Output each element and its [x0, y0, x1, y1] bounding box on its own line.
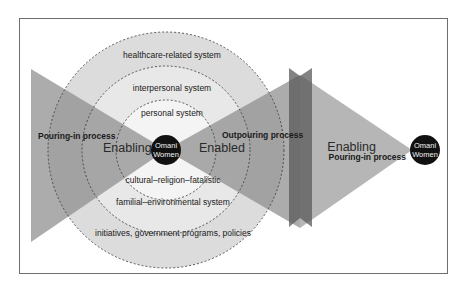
- label-personal-system: personal system: [141, 108, 203, 118]
- label-initiatives-government-programs-policies: initiatives, government programs, polici…: [95, 228, 251, 238]
- label-cultural-religion-fatalistic: cultural–religion–fatalistic: [126, 175, 222, 185]
- label-right-pouring-in-process: Pouring-in process: [329, 152, 407, 162]
- label-interpersonal-system: interpersonal system: [133, 83, 211, 93]
- label-outpouring-process: Outpouring process: [222, 130, 304, 140]
- label-left-pouring-in-process: Pouring-in process: [38, 131, 116, 141]
- label-healthcare-related-system: healthcare-related system: [123, 50, 221, 60]
- label-enabled: Enabled: [199, 141, 245, 155]
- label-familial-environmental-system: familial–environmental system: [116, 197, 230, 207]
- omani-women-model-diagram: healthcare-related system interpersonal …: [0, 0, 469, 290]
- right-node-line2: Women: [412, 150, 438, 159]
- threshold-band: [289, 68, 312, 227]
- label-left-enabling: Enabling: [103, 141, 152, 155]
- center-node-line1: Omani: [155, 141, 177, 150]
- center-node-line2: Women: [153, 150, 179, 159]
- right-node-line1: Omani: [414, 141, 436, 150]
